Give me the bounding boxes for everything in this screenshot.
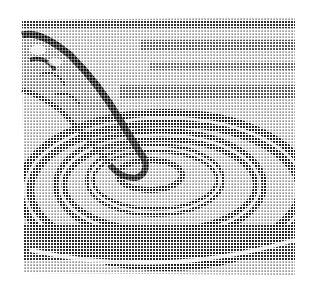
halftone-illustration: [0, 0, 317, 292]
